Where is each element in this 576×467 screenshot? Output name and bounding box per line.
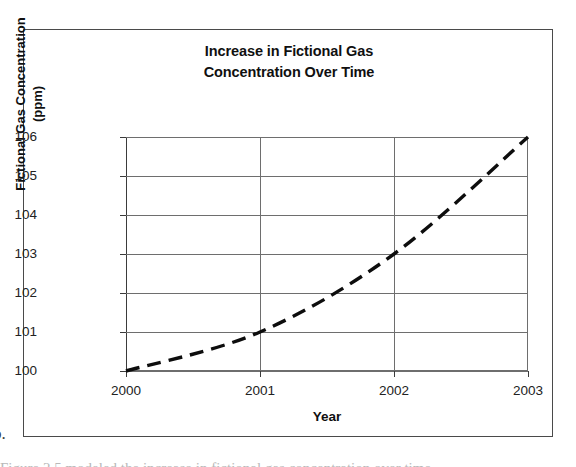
y-tick-label-105: 105 — [0, 169, 48, 183]
x-tick-mark-2002 — [394, 371, 395, 377]
x-tick-mark-2001 — [260, 371, 261, 377]
y-tick-label-100: 100 — [0, 364, 48, 378]
y-tick-label-106: 106 — [0, 130, 48, 144]
y-tick-label-101: 101 — [0, 325, 48, 339]
figure-frame: Increase in Fictional Gas Concentration … — [23, 29, 553, 437]
series-chart — [126, 137, 528, 371]
x-tick-label-2002: 2002 — [359, 384, 429, 398]
x-tick-mark-2003 — [528, 371, 529, 377]
x-axis-title: Year — [126, 409, 528, 424]
plot-area — [126, 137, 528, 371]
chart-title: Increase in Fictional Gas Concentration … — [24, 41, 554, 83]
x-tick-label-2000: 2000 — [91, 384, 161, 398]
y-tick-label-103: 103 — [0, 247, 48, 261]
figure-caption-marker: b. — [0, 424, 6, 444]
x-tick-label-2001: 2001 — [225, 384, 295, 398]
series-line-dashed — [126, 137, 528, 371]
y-tick-label-104: 104 — [0, 208, 48, 222]
y-tick-label-102: 102 — [0, 286, 48, 300]
figure-caption-fragment: Figure 2.5 modeled the increase in ficti… — [0, 461, 576, 467]
gridline-y-100 — [126, 371, 528, 372]
x-tick-label-2003: 2003 — [493, 384, 563, 398]
